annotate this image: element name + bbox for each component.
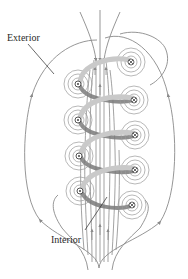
exterior-label: Exterior bbox=[7, 32, 40, 43]
cross-symbol-icon bbox=[129, 202, 135, 208]
dot-symbol-icon bbox=[75, 117, 81, 123]
dot-symbol-icon bbox=[76, 153, 82, 159]
cross-symbol-icon bbox=[131, 97, 137, 103]
cross-symbol-icon bbox=[132, 167, 138, 173]
interior-label: Interior bbox=[51, 234, 81, 245]
interior-field-lines bbox=[81, 60, 120, 262]
dot-symbol-icon bbox=[77, 188, 83, 194]
coil-front bbox=[80, 59, 133, 189]
cross-symbol-icon bbox=[132, 132, 138, 138]
dot-symbol-icon bbox=[75, 81, 81, 87]
exterior-leader-line bbox=[28, 44, 54, 74]
cross-symbol-icon bbox=[128, 59, 134, 65]
solenoid-field-diagram: Exterior Interior bbox=[0, 0, 188, 279]
